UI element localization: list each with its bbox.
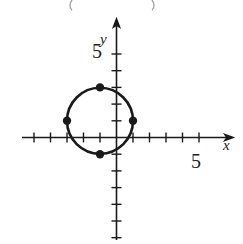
circle-curve <box>67 88 133 154</box>
cropped-paren-left <box>70 0 72 10</box>
coordinate-plane <box>0 0 243 244</box>
data-point <box>63 117 71 125</box>
x-axis-label: x <box>223 137 230 154</box>
axes <box>22 19 233 240</box>
data-point <box>96 83 104 91</box>
data-point <box>129 117 137 125</box>
data-point <box>96 150 104 158</box>
y-tick-label-5: 5 <box>92 40 102 63</box>
x-tick-label-5: 5 <box>191 150 201 173</box>
data-points <box>63 83 137 158</box>
cropped-paren-right <box>152 0 154 10</box>
